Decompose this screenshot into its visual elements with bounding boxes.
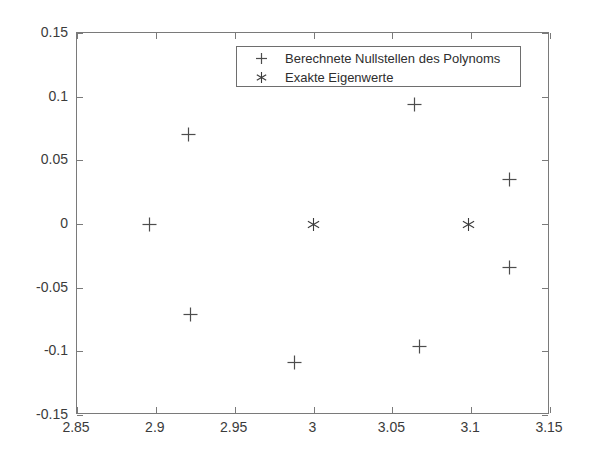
chart-legend: Berechnete Nullstellen des Polynoms Exak… [236,46,521,87]
data-point-s0-1 [181,127,196,142]
data-point-s0-5 [412,339,427,354]
x-tick-top-0 [77,33,78,39]
x-tick-label-6: 3.15 [519,420,579,434]
x-tick-top-5 [471,33,472,39]
x-tick-top-6 [550,33,551,39]
x-tick-top-1 [156,33,157,39]
y-tick-right-4 [542,288,548,289]
x-tick-3 [314,407,315,413]
legend-entry-exact-eigenvalues: Exakte Eigenwerte [237,67,520,87]
y-tick-right-2 [542,160,548,161]
y-tick-label-1: 0.1 [0,89,68,103]
x-tick-4 [392,407,393,413]
data-point-s0-6 [502,172,517,187]
x-tick-top-4 [392,33,393,39]
x-tick-0 [77,407,78,413]
x-tick-5 [471,407,472,413]
legend-entry-computed-roots: Berechnete Nullstellen des Polynoms [237,48,520,68]
x-tick-top-3 [314,33,315,39]
y-tick-right-6 [542,415,548,416]
x-tick-2 [235,407,236,413]
x-tick-label-0: 2.85 [46,420,106,434]
x-tick-top-2 [235,33,236,39]
data-point-s0-0 [142,217,157,232]
y-tick-label-6: -0.15 [0,407,68,421]
y-tick-label-5: -0.1 [0,343,68,357]
x-tick-label-5: 3.1 [440,420,500,434]
y-tick-label-4: -0.05 [0,280,68,294]
y-tick-label-0: 0.15 [0,25,68,39]
y-tick-right-0 [542,33,548,34]
y-tick-6 [77,415,83,416]
y-tick-label-2: 0.05 [0,152,68,166]
legend-label-computed-roots: Berechnete Nullstellen des Polynoms [285,52,500,65]
y-tick-5 [77,351,83,352]
scatter-chart-figure: 0.150.10.050-0.05-0.1-0.15 2.852.92.9533… [0,0,591,463]
x-tick-label-2: 2.95 [204,420,264,434]
data-point-s0-4 [407,97,422,112]
legend-label-exact-eigenvalues: Exakte Eigenwerte [285,71,393,84]
x-tick-label-4: 3.05 [361,420,421,434]
plus-marker-icon [237,52,285,65]
y-tick-right-5 [542,351,548,352]
x-tick-label-1: 2.9 [125,420,185,434]
y-tick-label-3: 0 [0,216,68,230]
plot-area [76,32,549,414]
data-point-s1-1 [461,217,476,232]
data-point-s0-7 [502,260,517,275]
data-point-s0-2 [183,307,198,322]
data-point-s0-3 [287,355,302,370]
y-tick-right-3 [542,224,548,225]
asterisk-marker-icon [237,71,285,84]
y-tick-1 [77,97,83,98]
y-tick-3 [77,224,83,225]
x-tick-1 [156,407,157,413]
y-tick-right-1 [542,97,548,98]
x-tick-6 [550,407,551,413]
y-tick-2 [77,160,83,161]
y-tick-4 [77,288,83,289]
data-point-s1-0 [306,217,321,232]
x-tick-label-3: 3 [283,420,343,434]
